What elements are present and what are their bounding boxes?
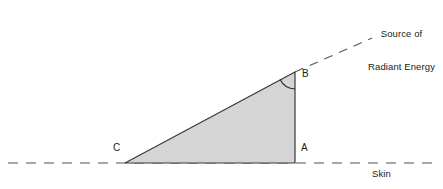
source-label-line-1: Source of (368, 28, 435, 39)
source-of-radiant-energy-label: Source of Radiant Energy (368, 6, 435, 94)
radiant-energy-diagram: Source of Radiant Energy Skin A B C (0, 0, 443, 189)
radiant-energy-ray-dashed (295, 38, 372, 72)
triangle-abc (125, 72, 295, 163)
vertex-label-a: A (301, 142, 308, 153)
source-label-line-2: Radiant Energy (368, 61, 435, 72)
skin-label: Skin (372, 168, 391, 179)
vertex-label-c: C (113, 142, 120, 153)
vertex-label-b: B (302, 68, 309, 79)
